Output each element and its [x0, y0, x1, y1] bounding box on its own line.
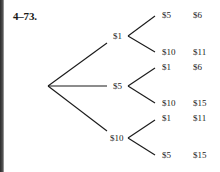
branch-root-to-10 [48, 86, 107, 131]
node-level1-5: $5 [113, 81, 122, 91]
leaf-total: $6 [193, 10, 202, 20]
node-level1-1: $1 [113, 31, 122, 41]
branch-root-to-1 [48, 43, 107, 86]
leaf-label: $5 [162, 10, 171, 20]
node-level1-10: $10 [110, 133, 124, 143]
leaf-total: $15 [193, 150, 207, 160]
leaf-label: $1 [162, 62, 171, 72]
leaf-total: $6 [193, 62, 202, 72]
leaf-label: $10 [162, 98, 176, 108]
leaf-label: $5 [162, 150, 171, 160]
tree-diagram-lines [0, 0, 220, 172]
leaf-total: $11 [193, 113, 206, 123]
leaf-label: $1 [162, 113, 171, 123]
leaf-total: $11 [193, 47, 206, 57]
leaf-total: $15 [193, 98, 207, 108]
leaf-label: $10 [162, 47, 176, 57]
